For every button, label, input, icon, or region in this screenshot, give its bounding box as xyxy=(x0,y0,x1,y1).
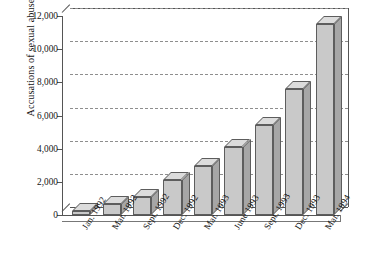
plot-back-right-edge xyxy=(348,8,349,207)
y-tick-label-6000: 6,000 xyxy=(24,111,58,121)
y-tick-label-12000: 12,000 xyxy=(24,11,58,21)
bar-side-face xyxy=(303,81,311,215)
bar xyxy=(316,16,342,215)
gridline-12000 xyxy=(70,8,348,9)
y-tick-label-2000: 2,000 xyxy=(24,177,58,187)
gridline-10000 xyxy=(70,41,348,42)
plot-area: 12,000 10,000 8,000 6,000 4,000 2,000 0 … xyxy=(0,0,369,274)
bar-side-face xyxy=(334,16,342,215)
plot-depth-edge-top-left xyxy=(62,4,70,12)
y-tick-label-0: 0 xyxy=(24,210,58,220)
bar-front-face xyxy=(194,166,212,215)
y-axis-tick-labels: 12,000 10,000 8,000 6,000 4,000 2,000 0 xyxy=(18,0,58,274)
gridline-8000 xyxy=(70,74,348,75)
bar-front-face xyxy=(316,24,334,215)
y-tick-label-8000: 8,000 xyxy=(24,77,58,87)
bar-chart: Accusations of sexual abuse 12,000 xyxy=(0,0,369,274)
y-tick-label-4000: 4,000 xyxy=(24,144,58,154)
y-tick-label-10000: 10,000 xyxy=(24,44,58,54)
